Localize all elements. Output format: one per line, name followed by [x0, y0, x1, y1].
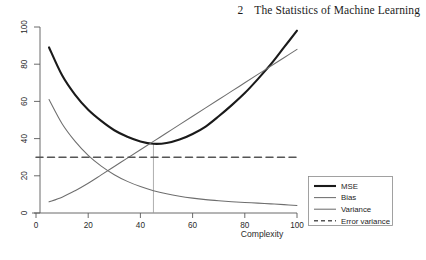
y-axis-tick-labels: 020406080100 — [20, 20, 29, 216]
y-axis-tick-label: 80 — [20, 59, 29, 69]
axes-group — [32, 27, 297, 218]
x-axis-tick-label: 40 — [136, 221, 146, 230]
x-axis-tick-label: 20 — [84, 221, 94, 230]
legend-label: MSE — [341, 182, 358, 191]
series-line-mse — [49, 31, 297, 144]
x-axis-tick-label: 60 — [188, 221, 198, 230]
x-axis-title: Complexity — [241, 229, 284, 239]
legend: MSEBiasVarianceError variance — [309, 177, 393, 226]
page-number: 2 — [238, 4, 244, 16]
y-axis-tick-label: 0 — [20, 210, 29, 215]
y-axis-tick-label: 100 — [20, 20, 29, 34]
page-running-header: 2The Statistics of Machine Learning — [238, 4, 421, 16]
y-axis-tick-label: 60 — [20, 96, 29, 106]
x-axis-tick-label: 100 — [290, 221, 304, 230]
legend-label: Error variance — [341, 217, 390, 226]
data-series-group — [36, 31, 297, 206]
y-axis-tick-label: 20 — [20, 171, 29, 181]
y-axis-ticks — [34, 27, 40, 213]
legend-label: Bias — [341, 193, 356, 202]
plot-canvas: 020406080100 020406080100 Complexity MSE… — [0, 18, 426, 260]
x-axis-tick-label: 0 — [34, 221, 39, 230]
series-line-bias — [49, 100, 297, 206]
legend-label: Variance — [341, 205, 371, 214]
series-line-variance — [49, 49, 297, 202]
bias-variance-tradeoff-figure: 020406080100 020406080100 Complexity MSE… — [0, 18, 426, 260]
y-axis-tick-label: 40 — [20, 134, 29, 144]
x-axis-ticks — [36, 213, 297, 218]
chapter-title: The Statistics of Machine Learning — [254, 4, 420, 16]
